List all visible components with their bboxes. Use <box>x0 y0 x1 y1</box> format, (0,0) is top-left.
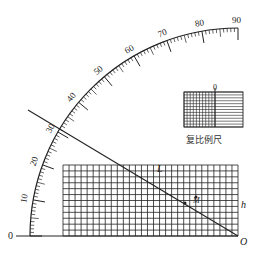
arc-tick <box>66 120 69 122</box>
arc-tick <box>64 123 67 125</box>
arc-label-90: 90 <box>232 16 241 25</box>
arc-tick <box>122 64 124 67</box>
arc-tick <box>104 77 112 86</box>
point-marker <box>184 202 187 205</box>
arc-tick <box>140 52 142 56</box>
arc-tick <box>48 151 52 153</box>
arc-tick <box>91 89 97 95</box>
arc-tick <box>188 34 189 38</box>
arc-tick <box>32 207 36 208</box>
arc-tick <box>76 105 79 108</box>
arc-tick <box>150 47 153 54</box>
arc-tick <box>137 54 139 57</box>
arc-tick <box>74 108 77 110</box>
arc-tick <box>56 135 59 137</box>
arc-tick <box>144 51 146 55</box>
arc-tick <box>170 39 171 43</box>
arc-tick <box>83 97 86 100</box>
arc-tick <box>72 111 75 113</box>
arc-tick <box>31 218 39 219</box>
arc-tick <box>53 142 57 144</box>
square-grid <box>63 165 238 236</box>
arc-tick <box>49 148 56 151</box>
arc-tick <box>70 114 73 116</box>
arc-tick <box>153 46 155 50</box>
arc-tick <box>94 86 97 89</box>
arc-tick <box>163 42 164 46</box>
diagonal-line <box>28 110 238 236</box>
arc-tick <box>160 43 161 47</box>
arc-tick <box>33 203 37 204</box>
arc-tick <box>131 58 133 61</box>
quadrant-scale-diagram <box>0 0 253 258</box>
label-o: O <box>240 237 247 247</box>
label-l: L <box>157 164 163 174</box>
label-h: h <box>241 200 246 210</box>
arc-tick <box>40 172 44 173</box>
arc-tick <box>167 41 171 52</box>
arc-tick <box>68 117 75 122</box>
zero-label: 0 <box>8 231 13 241</box>
arc-tick <box>110 72 112 75</box>
arc-tick <box>96 84 99 87</box>
arc-tick <box>184 35 186 43</box>
compound-scale-inset <box>184 88 243 127</box>
arc-tick <box>47 155 51 157</box>
arc-label-10: 10 <box>20 193 30 203</box>
arc-tick <box>79 102 88 110</box>
arc-tick <box>99 81 102 84</box>
arc-scale <box>30 28 238 236</box>
arc-tick <box>39 175 43 176</box>
arc-tick <box>107 74 110 77</box>
arc-tick <box>41 168 45 169</box>
arc-tick <box>125 62 127 65</box>
arc-tick <box>36 186 40 187</box>
arc-tick <box>45 158 49 159</box>
arc-tick <box>88 92 91 95</box>
arc-tick <box>113 70 115 73</box>
arc-tick <box>116 68 118 71</box>
arc-label-80: 80 <box>194 19 204 29</box>
arc-tick <box>181 36 182 40</box>
arc-tick <box>174 38 175 42</box>
arc-tick <box>119 66 124 73</box>
arc-tick <box>202 31 204 43</box>
arc-tick <box>38 179 42 180</box>
arc-tick <box>51 145 55 147</box>
arc-tick <box>195 33 196 37</box>
arc-tick <box>220 29 221 37</box>
label-m: M <box>193 197 200 205</box>
arc-tick <box>177 37 178 41</box>
arc-tick <box>198 32 199 36</box>
arc-tick <box>157 45 159 49</box>
arc-line <box>30 28 238 236</box>
arc-tick <box>191 33 192 37</box>
arc-tick <box>128 60 130 63</box>
arc-tick <box>44 161 48 162</box>
inset-caption: 复比例尺 <box>186 133 222 146</box>
arc-tick <box>54 138 58 140</box>
inset-zero-label: 0 <box>213 84 217 92</box>
arc-tick <box>35 189 39 190</box>
arc-tick <box>86 94 89 97</box>
arc-tick <box>43 165 54 169</box>
arc-tick <box>33 200 45 202</box>
arc-tick <box>34 196 38 197</box>
arc-tick <box>37 182 45 184</box>
arc-tick <box>62 126 65 128</box>
arc-tick <box>205 31 206 35</box>
arc-tick <box>81 100 84 103</box>
arc-tick <box>209 30 210 34</box>
arc-tick <box>147 49 149 53</box>
arc-tick <box>35 193 39 194</box>
arc-tick <box>102 79 105 82</box>
